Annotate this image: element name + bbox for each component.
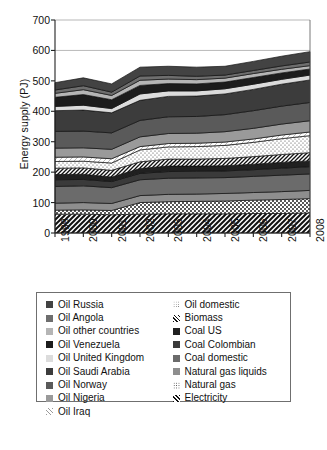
legend-item[interactable]: Oil United Kingdom (46, 352, 164, 365)
legend-item[interactable]: Oil Norway (46, 378, 164, 391)
chart-page: 0100200300400500600700 Energy supply (PJ… (0, 0, 327, 450)
y-tick-label: 300 (32, 137, 50, 147)
y-tick-label: 400 (32, 106, 50, 116)
stacked-area-chart: 0100200300400500600700 Energy supply (PJ… (0, 0, 327, 288)
legend-item[interactable]: Oil other countries (46, 325, 164, 338)
x-tick-label: 2006 (257, 218, 269, 242)
legend-item[interactable]: Coal domestic (173, 352, 291, 365)
legend-item[interactable]: Coal US (173, 325, 291, 338)
legend-swatch-icon (173, 341, 180, 348)
x-tick-label: 2007 (286, 218, 298, 242)
legend-item[interactable]: Natural gas (173, 378, 291, 391)
legend-item[interactable]: Biomass (173, 311, 291, 324)
legend-item[interactable]: Oil Angola (46, 311, 164, 324)
legend-item[interactable]: Electricity (173, 392, 291, 405)
legend-item-label: Oil Norway (58, 380, 107, 390)
chart-legend: Oil RussiaOil AngolaOil other countriesO… (36, 292, 291, 402)
legend-swatch-icon (173, 395, 180, 402)
y-axis-label: Energy supply (PJ) (18, 44, 30, 204)
legend-item-label: Electricity (185, 393, 228, 403)
legend-item[interactable]: Oil Iraq (46, 405, 164, 418)
legend-item-label: Natural gas (185, 380, 236, 390)
legend-swatch-icon (173, 328, 180, 335)
legend-item-label: Oil Saudi Arabia (58, 367, 130, 377)
y-tick-label: 600 (32, 45, 50, 55)
legend-item[interactable]: Oil Nigeria (46, 392, 164, 405)
legend-swatch-icon (173, 301, 180, 308)
y-tick-label: 200 (32, 167, 50, 177)
x-tick-label: 1999 (59, 218, 71, 242)
legend-item-label: Coal Colombian (185, 340, 256, 350)
legend-item-label: Coal domestic (185, 353, 248, 363)
x-tick-label: 2005 (229, 218, 241, 242)
legend-swatch-icon (46, 328, 53, 335)
legend-swatch-icon (46, 341, 53, 348)
legend-swatch-icon (46, 408, 53, 415)
legend-item-label: Oil Nigeria (58, 393, 105, 403)
legend-item[interactable]: Oil Venezuela (46, 338, 164, 351)
legend-item-label: Oil Venezuela (58, 340, 120, 350)
legend-column-right: Oil domesticBiomassCoal USCoal Colombian… (164, 298, 291, 401)
legend-swatch-icon (46, 395, 53, 402)
x-tick-label: 2000 (87, 218, 99, 242)
x-tick-label: 2008 (314, 218, 326, 242)
legend-swatch-icon (173, 355, 180, 362)
legend-swatch-icon (173, 382, 180, 389)
legend-swatch-icon (46, 382, 53, 389)
legend-item-label: Oil United Kingdom (58, 353, 144, 363)
legend-item-label: Oil other countries (58, 326, 139, 336)
legend-column-left: Oil RussiaOil AngolaOil other countriesO… (37, 298, 164, 401)
legend-item[interactable]: Oil domestic (173, 298, 291, 311)
x-tick-label: 2002 (144, 218, 156, 242)
legend-swatch-icon (46, 315, 53, 322)
x-tick-label: 2001 (116, 218, 128, 242)
legend-item-label: Oil Angola (58, 313, 104, 323)
y-tick-label: 500 (32, 76, 50, 86)
legend-swatch-icon (46, 355, 53, 362)
legend-item-label: Oil Iraq (58, 407, 90, 417)
legend-swatch-icon (173, 368, 180, 375)
legend-swatch-icon (46, 368, 53, 375)
legend-item-label: Biomass (185, 313, 223, 323)
x-axis-ticks: 1999200020012002200320042005200620072008 (0, 236, 327, 288)
legend-item-label: Oil Russia (58, 300, 104, 310)
legend-item[interactable]: Natural gas liquids (173, 365, 291, 378)
x-tick-label: 2004 (201, 218, 213, 242)
y-tick-label: 100 (32, 198, 50, 208)
legend-item-label: Natural gas liquids (185, 367, 267, 377)
legend-swatch-icon (46, 301, 53, 308)
y-tick-label: 700 (32, 15, 50, 25)
x-tick-label: 2003 (172, 218, 184, 242)
legend-swatch-icon (173, 315, 180, 322)
legend-item[interactable]: Oil Saudi Arabia (46, 365, 164, 378)
legend-item[interactable]: Coal Colombian (173, 338, 291, 351)
legend-item-label: Oil domestic (185, 300, 240, 310)
legend-item[interactable]: Oil Russia (46, 298, 164, 311)
legend-item-label: Coal US (185, 326, 222, 336)
